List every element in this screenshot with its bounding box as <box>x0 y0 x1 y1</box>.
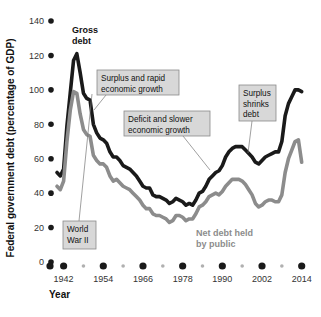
surplus-shrinks-debt-callout-line: debt <box>243 110 260 119</box>
x-axis-label: 1990 <box>212 274 232 284</box>
y-axis-label: 40 <box>34 188 44 198</box>
x-axis-minor-dot <box>201 264 205 268</box>
surplus-rapid-growth-callout-line: Surplus and rapid <box>101 74 166 83</box>
y-axis-label: 60 <box>34 154 44 164</box>
x-axis-dot <box>139 262 146 269</box>
deficit-slower-growth-callout-line: economic growth <box>128 126 190 135</box>
chart-background <box>0 0 321 317</box>
surplus-shrinks-debt-callout-line: shrinks <box>243 100 269 109</box>
chart-container: 020406080100120140 194219541966197819902… <box>0 0 321 317</box>
x-axis-dot <box>179 262 186 269</box>
y-axis-label: 120 <box>29 51 44 61</box>
y-axis-title: Federal government debt (percentage of G… <box>5 39 16 258</box>
x-axis-minor-dot <box>121 264 125 268</box>
surplus-rapid-growth-callout-line: economic growth <box>101 85 163 94</box>
y-axis-dot <box>48 190 54 196</box>
deficit-slower-growth-callout-line: Deficit and slower <box>128 115 193 124</box>
y-axis-dot <box>48 225 54 231</box>
x-axis-minor-dot <box>161 264 165 268</box>
x-axis-label: 2002 <box>252 274 272 284</box>
y-axis-dot <box>48 87 54 93</box>
net-debt-label: by public <box>196 239 236 249</box>
x-axis-label: 1954 <box>93 274 113 284</box>
x-axis-minor-dot <box>280 264 284 268</box>
world-war-ii-callout-line: World <box>67 225 89 234</box>
x-axis-dot <box>219 262 226 269</box>
gross-debt-label: debt <box>72 36 91 46</box>
surplus-shrinks-debt-callout-line: Surplus <box>243 89 271 98</box>
y-axis-label: 100 <box>29 85 44 95</box>
y-axis-label: 0 <box>39 257 44 267</box>
net-debt-label: Net debt held <box>196 228 253 238</box>
x-axis-label: 1966 <box>133 274 153 284</box>
y-axis-label: 20 <box>34 223 44 233</box>
x-axis-title: Year <box>49 289 70 300</box>
y-axis-dot <box>48 156 54 162</box>
y-axis-dot <box>48 53 54 59</box>
world-war-ii-callout-line: War II <box>67 236 89 245</box>
gross-debt-label: Gross <box>72 25 98 35</box>
y-axis-dot <box>48 121 54 127</box>
x-axis-dot <box>60 262 67 269</box>
x-axis-dot <box>298 262 305 269</box>
x-axis-dot-origin <box>46 262 53 269</box>
x-axis-dot <box>100 262 107 269</box>
x-axis-minor-dot <box>82 264 86 268</box>
y-axis-label: 80 <box>34 120 44 130</box>
x-axis-label: 2014 <box>292 274 312 284</box>
y-axis-label: 140 <box>29 16 44 26</box>
debt-line-chart: 020406080100120140 194219541966197819902… <box>0 0 321 317</box>
x-axis-minor-dot <box>240 264 244 268</box>
y-axis-dot <box>48 18 54 24</box>
x-axis-label: 1978 <box>173 274 193 284</box>
x-axis-dot <box>258 262 265 269</box>
x-axis-label: 1942 <box>54 274 74 284</box>
